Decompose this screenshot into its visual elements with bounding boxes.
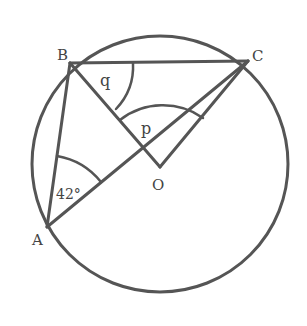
point-label-b: B <box>57 46 68 64</box>
radius-ob <box>70 63 160 167</box>
circle <box>32 36 288 292</box>
chord-ac <box>47 61 248 227</box>
radius-oc <box>160 61 248 167</box>
angle-arc-q <box>116 63 133 109</box>
angle-label-42: 42° <box>56 186 81 202</box>
diagram-canvas: B C A O q p 42° <box>0 0 307 326</box>
point-label-a: A <box>31 231 43 249</box>
angle-label-q: q <box>100 71 110 90</box>
angle-label-p: p <box>141 119 151 138</box>
chord-bc <box>70 61 248 63</box>
point-label-c: C <box>252 47 263 65</box>
angle-arc-42 <box>57 156 101 182</box>
point-label-o: O <box>152 176 164 194</box>
circle-geometry-diagram: B C A O q p 42° <box>0 0 307 326</box>
